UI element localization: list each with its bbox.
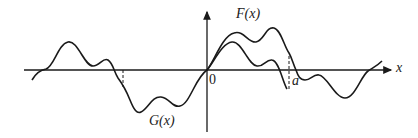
label-x-axis: x (396, 60, 402, 76)
label-a: a (292, 73, 299, 89)
curve-G (32, 42, 207, 113)
function-graph-figure: F(x) G(x) 0 a x (0, 0, 418, 138)
label-F: F(x) (236, 6, 260, 22)
label-origin: 0 (209, 72, 216, 88)
label-G: G(x) (149, 113, 175, 129)
graph-canvas (0, 0, 418, 138)
